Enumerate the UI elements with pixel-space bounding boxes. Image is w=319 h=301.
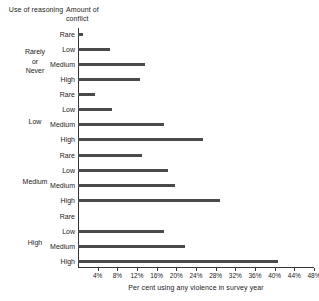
bar-label-g4-high: High [43,258,75,266]
bar [78,169,168,172]
bar-label-g4-rare: Rare [43,213,75,221]
bar-label-g3-high: High [43,197,75,205]
bar-label-g4-low: Low [43,228,75,236]
bar-label-g2-low: Low [43,106,75,114]
bar-label-g4-medium: Medium [43,243,75,251]
bar [78,63,145,66]
x-axis-tick-label: 48% [302,272,319,280]
bar-label-g2-medium: Medium [43,121,75,129]
bar-label-g2-rare: Rare [43,91,75,99]
bar-label-g2-high: High [43,136,75,144]
column-header-use-of-reasoning: Use of reasoning [8,6,64,15]
x-axis-tick [314,268,315,271]
bar-chart: Use of reasoning Amount of conflict Rare… [0,0,319,301]
bar-label-g3-rare: Rare [43,152,75,160]
bar [78,138,203,141]
x-axis-tick [98,268,99,271]
plot-area [78,28,314,268]
column-header-amount-of-conflict: Amount of conflict [66,6,118,23]
x-axis-caption: Per cent using any violence in survey ye… [78,284,314,291]
bar [78,230,164,233]
bar-label-g3-medium: Medium [43,182,75,190]
bar [78,184,175,187]
bar-label-g3-low: Low [43,167,75,175]
bar [78,260,278,263]
x-axis-tick [157,268,158,271]
x-axis-tick [255,268,256,271]
x-axis-tick [294,268,295,271]
bar [78,33,83,36]
bar-label-g1-high: High [43,76,75,84]
bar [78,245,185,248]
bar [78,93,95,96]
bar-label-g1-medium: Medium [43,61,75,69]
x-axis-tick [117,268,118,271]
x-axis-tick [196,268,197,271]
x-axis-tick [216,268,217,271]
bar [78,78,140,81]
x-axis-tick [235,268,236,271]
x-axis-tick [137,268,138,271]
bar [78,199,220,202]
bar [78,154,142,157]
bar [78,48,110,51]
bar-label-g1-rare: Rare [43,31,75,39]
x-axis-tick [275,268,276,271]
bar-label-g1-low: Low [43,46,75,54]
bar [78,108,112,111]
x-axis-tick [176,268,177,271]
bar [78,123,164,126]
